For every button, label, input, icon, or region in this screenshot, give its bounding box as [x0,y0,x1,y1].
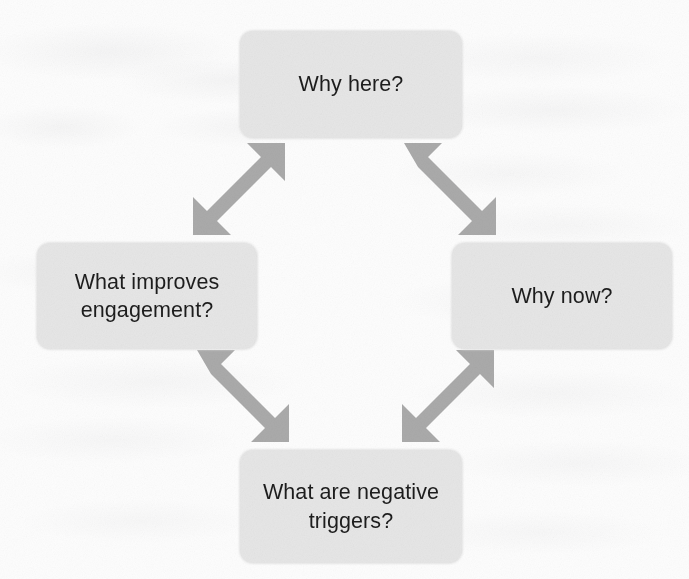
cycle-diagram: Why here? Why now? What are negative tri… [0,0,689,579]
node-improves-engagement[interactable]: What improves engagement? [37,243,257,349]
node-negative-triggers[interactable]: What are negative triggers? [240,450,462,563]
node-why-now[interactable]: Why now? [452,243,672,349]
node-why-here[interactable]: Why here? [240,31,462,138]
node-label-improves-engagement: What improves engagement? [75,268,220,325]
node-label-negative-triggers: What are negative triggers? [263,478,439,535]
connector-arrow-down-right-icon [404,143,496,235]
connector-arrow-up-right-icon-2 [402,350,494,442]
connector-arrow-up-right-icon [193,143,285,235]
connector-arrow-down-right-icon-2 [197,350,289,442]
scanned-diagram-page: Why here? Why now? What are negative tri… [0,0,689,579]
node-label-why-now: Why now? [511,282,612,310]
node-label-why-here: Why here? [299,70,404,98]
